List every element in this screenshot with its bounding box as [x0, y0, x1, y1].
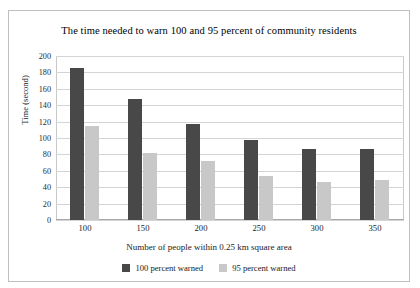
y-axis-ticks: 020406080100120140160180200: [13, 56, 51, 220]
x-tick-label: 250: [239, 223, 279, 233]
y-tick-label: 0: [17, 216, 51, 225]
gridline: [56, 220, 404, 221]
bar[interactable]: [244, 140, 258, 220]
bar-group: [360, 56, 389, 220]
bar[interactable]: [70, 68, 84, 220]
y-tick-label: 20: [17, 199, 51, 208]
legend-label: 100 percent warned: [135, 263, 203, 273]
y-tick-label: 160: [17, 84, 51, 93]
bar[interactable]: [85, 126, 99, 220]
legend-swatch-icon: [219, 264, 227, 272]
y-tick-label: 200: [17, 52, 51, 61]
legend-label: 95 percent warned: [232, 263, 295, 273]
x-tick-label: 100: [65, 223, 105, 233]
chart-frame: The time needed to warn 100 and 95 perce…: [8, 10, 410, 282]
legend-item[interactable]: 100 percent warned: [122, 263, 203, 273]
bar-group: [244, 56, 273, 220]
y-tick-label: 180: [17, 68, 51, 77]
y-tick-label: 120: [17, 117, 51, 126]
legend-item[interactable]: 95 percent warned: [219, 263, 295, 273]
chart-title: The time needed to warn 100 and 95 perce…: [9, 25, 409, 36]
bar[interactable]: [259, 176, 273, 220]
bar[interactable]: [143, 153, 157, 220]
x-tick-label: 150: [123, 223, 163, 233]
x-axis-ticks: 100150200250300350: [56, 223, 404, 237]
bar[interactable]: [128, 99, 142, 220]
bar-group: [128, 56, 157, 220]
bar[interactable]: [302, 149, 316, 220]
bar[interactable]: [360, 149, 374, 220]
x-tick-label: 300: [297, 223, 337, 233]
bar[interactable]: [186, 124, 200, 220]
bar[interactable]: [375, 180, 389, 220]
y-tick-label: 100: [17, 134, 51, 143]
y-tick-label: 60: [17, 166, 51, 175]
x-tick-label: 350: [355, 223, 395, 233]
legend-swatch-icon: [122, 264, 130, 272]
x-axis-label: Number of people within 0.25 km square a…: [9, 242, 409, 252]
y-tick-label: 80: [17, 150, 51, 159]
y-tick-label: 40: [17, 183, 51, 192]
x-tick-label: 200: [181, 223, 221, 233]
bar[interactable]: [201, 161, 215, 220]
bar-group: [186, 56, 215, 220]
plot-area: [56, 56, 404, 220]
bar[interactable]: [317, 182, 331, 220]
bar-series-container: [56, 56, 404, 220]
chart-legend: 100 percent warned95 percent warned: [9, 263, 409, 273]
bar-group: [302, 56, 331, 220]
y-tick-label: 140: [17, 101, 51, 110]
bar-group: [70, 56, 99, 220]
